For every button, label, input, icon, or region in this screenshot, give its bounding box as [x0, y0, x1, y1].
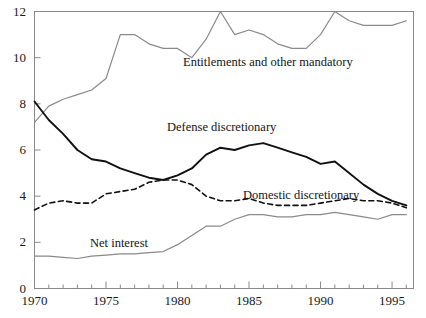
chart-container: 024681012 197019751980198519901995 Entit… — [0, 0, 426, 318]
x-tick-label-1995: 1995 — [370, 293, 414, 309]
x-tick-label-1975: 1975 — [84, 293, 128, 309]
y-tick-label-6: 6 — [4, 142, 26, 158]
y-tick-label-10: 10 — [4, 50, 26, 66]
x-tick-label-1970: 1970 — [13, 293, 57, 309]
y-tick-label-12: 12 — [4, 4, 26, 20]
x-tick-label-1985: 1985 — [227, 293, 271, 309]
x-tick-label-1980: 1980 — [156, 293, 200, 309]
line-chart-plot — [0, 0, 426, 318]
series-label-3: Net interest — [90, 236, 148, 251]
y-tick-label-4: 4 — [4, 188, 26, 204]
x-tick-label-1990: 1990 — [299, 293, 343, 309]
y-tick-label-2: 2 — [4, 234, 26, 250]
series-label-1: Defense discretionary — [167, 120, 276, 135]
series-label-0: Entitlements and other mandatory — [183, 55, 353, 70]
y-tick-label-8: 8 — [4, 96, 26, 112]
series-label-2: Domestic discretionary — [243, 188, 359, 203]
